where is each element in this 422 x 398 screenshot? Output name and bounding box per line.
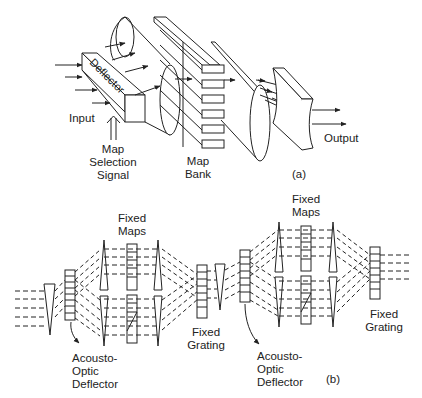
- label-map-bank: Map Bank: [178, 155, 218, 181]
- diagram-a: [55, 17, 346, 161]
- label-a: (a): [292, 168, 306, 181]
- fixed-grating-1: [197, 265, 207, 318]
- fixed-maps-2: [301, 226, 311, 324]
- label-map-selection-signal: Map Selection Signal: [88, 143, 138, 182]
- prism-3: [215, 264, 225, 310]
- fixed-grating-2: [370, 247, 380, 299]
- label-b: (b): [326, 373, 340, 386]
- label-fixed-maps-1: Fixed Maps: [112, 212, 152, 238]
- prism-lower-4: [329, 277, 337, 327]
- label-fixed-maps-2: Fixed Maps: [286, 193, 326, 219]
- label-ao-deflector-2: Acousto- Optic Deflector: [257, 350, 303, 389]
- label-fixed-grating-2: Fixed Grating: [362, 308, 406, 334]
- input-beams: [15, 291, 45, 326]
- prism-lower-1: [100, 296, 108, 346]
- label-input: Input: [69, 112, 95, 125]
- prism-lower-2: [154, 296, 162, 346]
- map-selection-arrow: [107, 116, 120, 140]
- fixed-maps-1: [127, 244, 137, 343]
- label-fixed-grating-1: Fixed Grating: [184, 326, 228, 352]
- label-output: Output: [324, 132, 359, 145]
- label-ao-deflector-1: Acousto- Optic Deflector: [72, 352, 118, 391]
- prism-lower-3: [275, 277, 283, 327]
- ao-deflector-2: [240, 250, 250, 302]
- ao-deflector-1: [65, 270, 75, 320]
- prism-1: [44, 284, 55, 335]
